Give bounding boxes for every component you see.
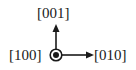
crystal-axes-diagram: [001] [100] [010] <box>0 0 136 70</box>
arrow-up-icon <box>53 24 60 49</box>
arrow-right-icon <box>62 52 94 59</box>
axis-label-010: [010] <box>94 47 127 63</box>
axis-label-001: [001] <box>37 5 70 21</box>
out-of-page-axis-icon <box>50 49 62 61</box>
axis-label-100: [100] <box>9 47 42 63</box>
